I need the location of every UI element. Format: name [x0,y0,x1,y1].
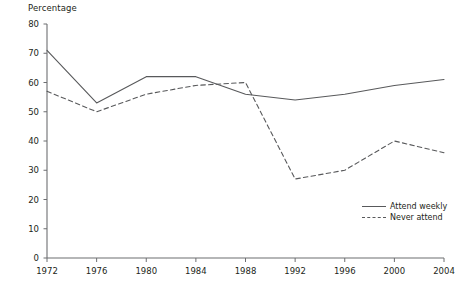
y-tick-label: 0 [13,253,39,263]
y-tick-label: 70 [13,48,39,58]
x-tick-label: 1976 [77,266,117,276]
legend-label-never-attend: Never attend [390,212,443,223]
y-tick-label: 30 [13,165,39,175]
x-tick-label: 2004 [424,266,459,276]
axes [44,24,445,262]
y-tick-label: 40 [13,136,39,146]
y-axis-title: Percentage [28,3,77,13]
y-tick-label: 20 [13,195,39,205]
x-tick-label: 1996 [325,266,365,276]
y-tick-label: 10 [13,224,39,234]
x-tick-label: 1984 [176,266,216,276]
y-tick-label: 80 [13,19,39,29]
x-tick-label: 1972 [27,266,67,276]
x-tick-label: 2000 [374,266,414,276]
y-tick-label: 60 [13,78,39,88]
legend-item-never-attend: Never attend [362,212,447,223]
legend-swatch-solid-icon [362,202,386,211]
x-tick-label: 1992 [275,266,315,276]
data-series [47,50,444,179]
series-line-never-attend [47,83,444,180]
x-tick-label: 1988 [226,266,266,276]
x-tick-label: 1980 [126,266,166,276]
series-line-attend-weekly [47,50,444,103]
chart-legend: Attend weekly Never attend [362,201,447,223]
y-tick-label: 50 [13,107,39,117]
legend-label-attend-weekly: Attend weekly [390,201,447,212]
legend-item-attend-weekly: Attend weekly [362,201,447,212]
legend-swatch-dashed-icon [362,213,386,222]
